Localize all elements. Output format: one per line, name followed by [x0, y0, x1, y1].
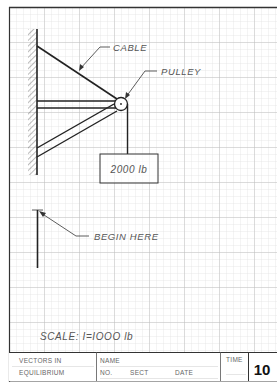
load-label: 2000 lb: [109, 164, 147, 175]
title-line-2: EQUILIBRIUM: [19, 369, 65, 377]
cable-label: CABLE: [113, 42, 147, 53]
begin-label: BEGIN HERE: [94, 231, 159, 242]
no-label: NO.: [100, 369, 112, 376]
name-label: NAME: [100, 357, 120, 364]
sect-label: SECT: [130, 369, 149, 376]
time-label: TIME: [226, 356, 243, 363]
pulley-label: PULLEY: [161, 66, 201, 77]
load-box: 2000 lb: [100, 154, 158, 183]
scale-label: SCALE: I=IOOO lb: [40, 331, 133, 342]
sheet-number: 10: [254, 361, 271, 378]
title-block: VECTORS IN EQUILIBRIUM NAME NO. SECT DAT…: [9, 352, 277, 382]
date-label: DATE: [175, 369, 193, 376]
wall: [28, 29, 37, 175]
title-line-1: VECTORS IN: [19, 357, 62, 364]
pulley: [115, 98, 128, 111]
drafting-sheet: 2000 lb CABLE PULLEY BEGIN HERE SCALE: I…: [0, 0, 277, 386]
